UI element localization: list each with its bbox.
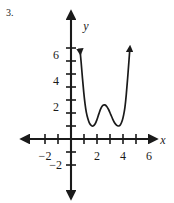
x-tick-label-6: 6 bbox=[146, 149, 152, 163]
x-tick-label-2: 2 bbox=[94, 149, 100, 163]
y-tick-label-6: 6 bbox=[53, 48, 59, 62]
y-tick-label-2: 2 bbox=[53, 100, 59, 114]
quartic-curve bbox=[80, 50, 130, 126]
x-tick-label-4: 4 bbox=[120, 149, 126, 163]
y-tick-label-4: 4 bbox=[53, 74, 59, 88]
y-axis-label: y bbox=[82, 19, 89, 33]
y-tick-label--2: −2 bbox=[49, 158, 62, 172]
y-axis: 6 4 2 −2 y bbox=[49, 18, 89, 192]
x-axis-label: x bbox=[159, 133, 166, 147]
graph-figure: −2 2 4 6 x 6 4 2 −2 y bbox=[0, 0, 174, 203]
